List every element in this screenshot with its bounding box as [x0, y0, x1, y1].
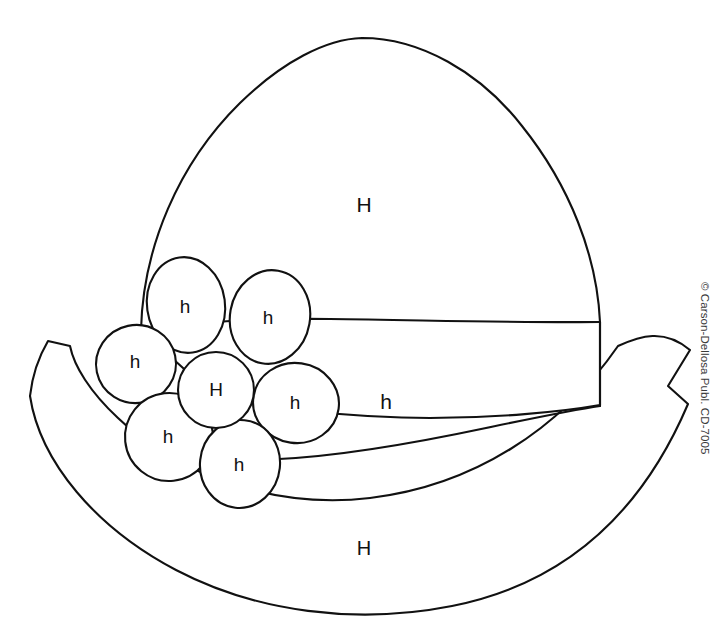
copyright-notice: © Carson-Dellosa Publ. CD-7005 [697, 281, 713, 452]
petal-left-label: h [130, 351, 141, 372]
petal-bottom-label: h [234, 454, 245, 475]
pattern-page: H h H H h h h h h h © Carson-Dellosa Pub… [0, 0, 715, 625]
petal-right-label: h [290, 392, 301, 413]
petal-top-right-label: h [263, 307, 274, 328]
petal-bottom-left-label: h [163, 426, 174, 447]
flower-center-label: H [209, 379, 223, 400]
petal-top-left-label: h [180, 296, 191, 317]
band-label: h [380, 390, 392, 413]
crown-label: H [356, 193, 371, 216]
brim-label: H [357, 537, 371, 559]
hat-pattern-artboard: H h H H h h h h h h [0, 0, 715, 625]
